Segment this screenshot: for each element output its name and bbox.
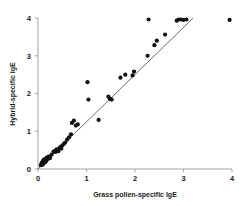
y-tick-label: 2 [27, 89, 31, 98]
data-point [146, 17, 150, 21]
data-point [76, 122, 80, 126]
data-point [130, 73, 134, 77]
data-point [69, 132, 73, 136]
y-tick-label: 3 [27, 52, 31, 61]
data-point [152, 43, 156, 47]
data-point [97, 118, 101, 122]
data-point [110, 97, 114, 101]
data-point [72, 119, 76, 123]
y-tick-label: 1 [27, 127, 31, 136]
data-point [86, 97, 90, 101]
data-point [155, 39, 159, 43]
y-tick-label: 0 [27, 165, 31, 174]
x-tick-label: 2 [133, 174, 137, 183]
data-point [132, 70, 136, 74]
scatter-plot-figure: 01234 01234 Grass pollen-specific IgE Hy… [0, 0, 242, 206]
data-point [227, 18, 231, 22]
x-tick-label: 0 [36, 174, 40, 183]
x-tick-label: 1 [84, 174, 88, 183]
x-axis-title: Grass pollen-specific IgE [93, 191, 177, 199]
x-tick-label: 3 [181, 174, 185, 183]
data-point [123, 73, 127, 77]
data-point [85, 80, 89, 84]
data-point [118, 76, 122, 80]
y-axis-title: Hybrid-specific IgE [9, 62, 17, 126]
data-point [146, 54, 150, 58]
data-point [163, 33, 167, 37]
chart-canvas: 01234 01234 Grass pollen-specific IgE Hy… [0, 0, 242, 206]
data-point [184, 17, 188, 21]
